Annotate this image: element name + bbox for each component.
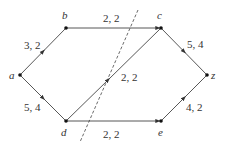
edge-e-z xyxy=(161,75,207,121)
edge-label-b-c: 2, 2 xyxy=(103,12,120,24)
edge-a-b xyxy=(20,28,66,75)
edge-label-c-z: 5, 4 xyxy=(187,38,204,50)
node-d xyxy=(64,119,68,123)
flow-network-diagram: a b c z d e 3, 2 2, 2 5, 4 5, 4 2, 2 2, … xyxy=(0,0,226,151)
edge-label-a-d: 5, 4 xyxy=(24,101,41,113)
node-b xyxy=(64,26,68,30)
node-label-z: z xyxy=(210,69,216,81)
edge-label-d-e: 2, 2 xyxy=(103,128,120,140)
edge-label-d-c: 2, 2 xyxy=(121,71,138,83)
node-label-c: c xyxy=(157,9,162,21)
node-e xyxy=(159,119,163,123)
node-c xyxy=(159,26,163,30)
edge-d-c xyxy=(66,28,161,121)
node-a xyxy=(18,73,22,77)
node-label-d: d xyxy=(61,126,67,138)
edge-label-a-b: 3, 2 xyxy=(24,39,41,51)
node-z xyxy=(205,73,209,77)
edge-label-e-z: 4, 2 xyxy=(186,101,203,113)
node-label-a: a xyxy=(9,69,15,81)
node-label-e: e xyxy=(158,126,163,138)
node-label-b: b xyxy=(62,9,68,21)
edge-a-d xyxy=(20,75,66,121)
edge-c-z xyxy=(161,28,207,75)
diagram-canvas: a b c z d e 3, 2 2, 2 5, 4 5, 4 2, 2 2, … xyxy=(0,0,226,151)
